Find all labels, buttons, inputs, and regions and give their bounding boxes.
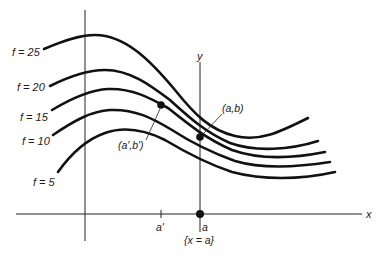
label-a-b: (a,b) <box>222 102 244 114</box>
tick-label-a-prime: a' <box>156 221 165 233</box>
label-f25: f = 25 <box>12 46 41 58</box>
x-axis-label: x <box>365 208 372 220</box>
point-a-b <box>196 133 204 141</box>
label-f10: f = 10 <box>22 135 51 147</box>
label-f15: f = 15 <box>20 111 49 123</box>
label-a-prime-b-prime: (a',b') <box>118 139 144 151</box>
point-a-prime-b-prime <box>157 101 165 109</box>
label-f5: f = 5 <box>33 176 56 188</box>
level-curve-f25 <box>44 35 308 138</box>
label-f20: f = 20 <box>17 81 46 93</box>
y-axis-label: y <box>196 50 204 62</box>
point-a-on-x-axis <box>196 210 204 218</box>
level-curves-diagram: f = 25 f = 20 f = 15 f = 10 f = 5 (a',b'… <box>0 0 381 258</box>
line-label-x-equals-a: {x = a} <box>184 234 215 246</box>
tick-label-a: a <box>202 221 208 233</box>
